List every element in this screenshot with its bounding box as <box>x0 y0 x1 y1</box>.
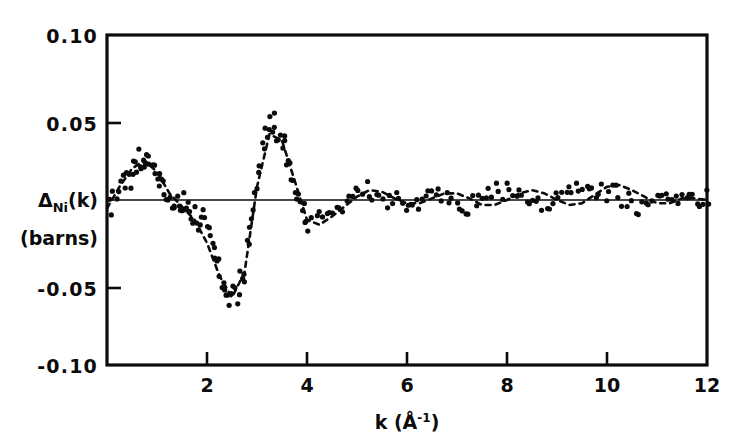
data-point <box>247 225 252 230</box>
data-point <box>196 227 201 232</box>
data-point <box>604 198 609 203</box>
data-point <box>128 186 133 191</box>
data-point <box>369 197 374 202</box>
data-point <box>465 212 470 217</box>
data-point <box>506 187 511 192</box>
data-point <box>237 292 242 297</box>
data-point <box>679 192 684 197</box>
data-point <box>336 205 341 210</box>
y-axis-title-line1: ΔNi(k) <box>38 189 98 215</box>
data-point <box>216 256 221 261</box>
data-point <box>555 195 560 200</box>
data-point <box>416 207 421 212</box>
data-point <box>424 193 429 198</box>
data-point <box>118 178 123 183</box>
data-point <box>360 192 365 197</box>
data-point <box>133 159 138 164</box>
x-tick-label-4: 4 <box>300 374 313 396</box>
data-point <box>146 153 151 158</box>
data-point <box>229 291 234 296</box>
data-point <box>365 179 370 184</box>
data-point <box>114 196 119 201</box>
data-point <box>241 272 246 277</box>
data-point <box>157 183 162 188</box>
x-tick-label-8: 8 <box>500 374 513 396</box>
data-point <box>675 201 680 206</box>
data-point <box>305 228 310 233</box>
data-point <box>257 163 262 168</box>
x-tick-label-6: 6 <box>400 374 413 396</box>
data-point <box>489 195 494 200</box>
data-point <box>116 189 121 194</box>
data-point <box>254 186 259 191</box>
data-point <box>142 165 147 170</box>
data-point <box>134 170 139 175</box>
data-point <box>390 201 395 206</box>
data-point <box>629 198 634 203</box>
data-point <box>123 185 128 190</box>
data-point <box>535 195 540 200</box>
data-point <box>649 198 654 203</box>
data-point <box>136 146 141 151</box>
data-point <box>400 201 405 206</box>
y-axis-title-argument: (k) <box>68 189 98 211</box>
data-point <box>222 287 227 292</box>
data-point <box>615 195 620 200</box>
y-tick-label-neg0.05: -0.05 <box>37 278 98 300</box>
data-point <box>256 170 261 175</box>
data-point <box>439 198 444 203</box>
y-axis-title-units: (barns) <box>20 227 98 249</box>
data-point <box>262 146 267 151</box>
data-point <box>706 201 711 206</box>
data-point <box>445 190 450 195</box>
data-point <box>340 209 345 214</box>
data-point <box>380 196 385 201</box>
x-axis-ticks <box>207 352 607 365</box>
y-tick-label-neg0.10: -0.10 <box>37 355 98 377</box>
data-point <box>187 209 192 214</box>
data-point <box>202 215 207 220</box>
data-point <box>639 199 644 204</box>
data-point <box>554 190 559 195</box>
data-point <box>157 171 162 176</box>
data-point <box>646 202 651 207</box>
data-point <box>664 191 669 196</box>
data-point <box>470 193 475 198</box>
data-point <box>446 200 451 205</box>
data-point <box>152 171 157 176</box>
y-tick-label-0.10: 0.10 <box>46 25 98 47</box>
data-point <box>272 110 277 115</box>
data-point <box>596 192 601 197</box>
data-point <box>227 303 232 308</box>
data-point <box>355 188 360 193</box>
data-point <box>317 209 322 214</box>
data-point <box>613 183 618 188</box>
data-point <box>309 215 314 220</box>
data-point-group <box>107 110 711 307</box>
data-point <box>303 219 308 224</box>
data-point <box>599 181 604 186</box>
data-point <box>109 212 114 217</box>
data-point <box>606 189 611 194</box>
data-point <box>510 193 515 198</box>
data-point <box>320 214 325 219</box>
data-point <box>181 190 186 195</box>
data-point <box>272 125 277 130</box>
data-point <box>300 208 305 213</box>
data-point <box>436 186 441 191</box>
data-point <box>192 204 197 209</box>
data-point <box>376 193 381 198</box>
data-point <box>674 194 679 199</box>
x-axis-title: k (Å-1) <box>375 410 440 433</box>
data-point <box>500 197 505 202</box>
data-point <box>251 207 256 212</box>
x-axis-title-close: ) <box>431 411 440 433</box>
data-point <box>232 285 237 290</box>
data-point <box>208 233 213 238</box>
data-point <box>161 192 166 197</box>
data-point <box>290 178 295 183</box>
data-point <box>235 301 240 306</box>
data-point <box>330 210 335 215</box>
data-point <box>404 208 409 213</box>
data-point <box>260 140 265 145</box>
